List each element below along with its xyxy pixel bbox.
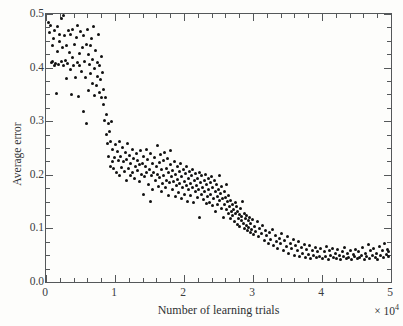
y-axis-minor-tick: [46, 215, 50, 216]
data-point: [364, 252, 367, 255]
data-point: [374, 256, 377, 259]
data-point: [81, 46, 84, 49]
data-point: [238, 225, 241, 228]
data-point: [194, 190, 197, 193]
data-point: [261, 224, 264, 227]
y-axis-minor-tick: [46, 161, 50, 162]
data-point: [280, 232, 283, 235]
data-point: [231, 203, 234, 206]
data-point: [217, 188, 220, 191]
y-axis-minor-tick: [387, 135, 391, 136]
data-point: [242, 222, 245, 225]
data-point: [78, 64, 81, 67]
data-point: [207, 188, 210, 191]
data-point: [341, 250, 344, 253]
data-point: [125, 179, 128, 182]
data-point: [213, 179, 216, 182]
data-point: [49, 24, 52, 27]
data-point: [159, 153, 162, 156]
data-point: [136, 169, 139, 172]
data-point: [161, 182, 164, 185]
x-axis-minor-tick: [212, 14, 213, 18]
data-point: [139, 149, 142, 152]
data-point: [211, 186, 214, 189]
data-point: [229, 217, 232, 220]
data-point: [225, 208, 228, 211]
data-point: [290, 247, 293, 250]
data-point: [57, 63, 60, 66]
data-point: [56, 50, 59, 53]
data-point: [160, 168, 163, 171]
data-point: [250, 228, 253, 231]
data-point: [89, 72, 92, 75]
data-point: [252, 233, 255, 236]
data-point: [129, 174, 132, 177]
data-point: [211, 204, 214, 207]
y-axis-tick-label: 0.2: [30, 168, 44, 180]
data-point: [253, 225, 256, 228]
data-point: [110, 120, 113, 123]
x-axis-major-tick: [46, 14, 47, 21]
data-point: [316, 250, 319, 253]
data-point: [334, 252, 337, 255]
data-point: [339, 258, 342, 261]
data-point: [154, 179, 157, 182]
y-axis-minor-tick: [46, 27, 50, 28]
data-point: [285, 245, 288, 248]
data-point: [113, 156, 116, 159]
data-point: [105, 113, 108, 116]
data-point: [319, 247, 322, 250]
data-point: [376, 258, 379, 261]
data-point: [350, 258, 353, 261]
data-point: [149, 200, 152, 203]
data-point: [182, 168, 185, 171]
data-point: [67, 29, 70, 32]
data-point: [205, 183, 208, 186]
x-axis-minor-tick: [377, 278, 378, 282]
x-axis-minor-tick: [129, 14, 130, 18]
data-point: [60, 17, 63, 20]
data-point: [90, 37, 93, 40]
data-point: [174, 195, 177, 198]
data-point: [329, 254, 332, 257]
x-axis-minor-tick: [225, 14, 226, 18]
data-point: [65, 44, 68, 47]
y-axis-minor-tick: [46, 188, 50, 189]
y-axis-tick-label: 0.0: [30, 275, 44, 287]
x-axis-tick-label: 2: [180, 286, 186, 298]
x-axis-tick-label: 4: [318, 286, 324, 298]
data-point: [91, 82, 94, 85]
data-points-layer: [46, 14, 391, 282]
data-point: [318, 255, 321, 258]
data-point: [208, 201, 211, 204]
data-point: [187, 188, 190, 191]
data-point: [108, 130, 111, 133]
data-point: [221, 197, 224, 200]
data-point: [88, 63, 91, 66]
y-axis-minor-tick: [387, 41, 391, 42]
x-axis-minor-tick: [170, 14, 171, 18]
data-point: [232, 208, 235, 211]
x-axis-minor-tick: [101, 14, 102, 18]
data-point: [301, 252, 304, 255]
data-point: [346, 252, 349, 255]
data-point: [121, 146, 124, 149]
y-axis-minor-tick: [46, 41, 50, 42]
x-axis-major-tick: [115, 275, 116, 282]
data-point: [84, 76, 87, 79]
data-point: [238, 213, 241, 216]
x-axis-minor-tick: [239, 278, 240, 282]
data-point: [349, 249, 352, 252]
data-point: [247, 226, 250, 229]
data-point: [96, 61, 99, 64]
data-point: [103, 119, 106, 122]
x-axis-tick-label: 1: [111, 286, 117, 298]
data-point: [201, 186, 204, 189]
data-point: [358, 256, 361, 259]
data-point: [360, 254, 363, 257]
data-point: [294, 244, 297, 247]
data-point: [338, 254, 341, 257]
data-point: [116, 150, 119, 153]
data-point: [228, 205, 231, 208]
x-axis-minor-tick: [239, 14, 240, 18]
